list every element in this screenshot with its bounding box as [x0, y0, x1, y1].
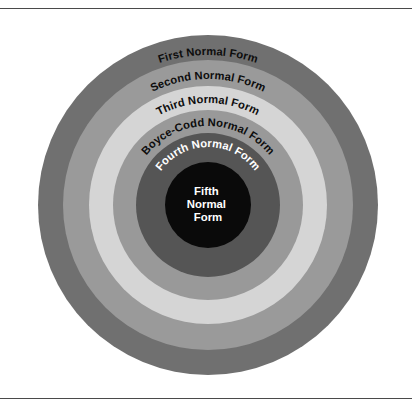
core-label-line-3: Form: [194, 211, 222, 223]
bottom-divider-rule: [0, 398, 412, 399]
core-label-line-1: Fifth: [194, 185, 219, 197]
core-label-line-2: Normal: [187, 198, 226, 210]
nested-circles-diagram: First Normal Form Second Normal Form Thi…: [0, 0, 412, 407]
figure-root: First Normal Form Second Normal Form Thi…: [0, 0, 412, 407]
